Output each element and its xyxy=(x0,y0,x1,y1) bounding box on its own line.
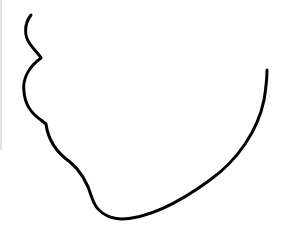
face-contour-line xyxy=(24,15,267,219)
profile-outline-drawing xyxy=(0,0,283,230)
